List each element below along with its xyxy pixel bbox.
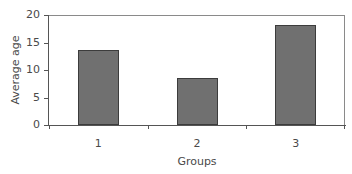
bar-chart: 05101520 123 Groups Average age (0, 0, 352, 174)
x-axis-title: Groups (49, 155, 345, 168)
bar-group-3 (275, 25, 316, 125)
x-tick-mark (246, 125, 247, 129)
x-category-label: 1 (78, 137, 118, 150)
x-tick-mark (344, 125, 345, 129)
y-tick-mark (44, 98, 49, 99)
x-tick-mark (148, 125, 149, 129)
y-tick-label: 0 (14, 119, 40, 131)
x-tick-mark (49, 125, 50, 129)
bar-group-2 (177, 78, 218, 125)
y-tick-label: 20 (14, 9, 40, 21)
y-tick-mark (44, 15, 49, 16)
y-tick-mark (44, 43, 49, 44)
x-category-label: 3 (276, 137, 316, 150)
y-tick-mark (44, 70, 49, 71)
bar-group-1 (78, 50, 119, 125)
y-axis-title: Average age (9, 35, 22, 104)
x-axis-line (48, 125, 346, 126)
x-category-label: 2 (177, 137, 217, 150)
